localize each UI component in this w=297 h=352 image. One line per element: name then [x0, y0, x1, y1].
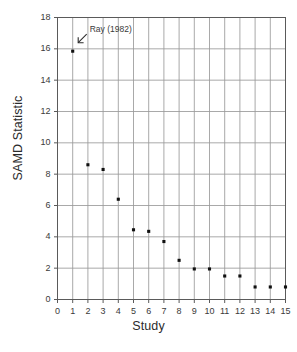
x-tick-label: 4	[111, 307, 125, 316]
x-tick-label: 12	[233, 307, 247, 316]
x-tick-label: 1	[66, 307, 80, 316]
x-tick-label: 10	[203, 307, 217, 316]
x-tick-label: 9	[187, 307, 201, 316]
y-tick-label: 18	[29, 13, 51, 22]
tick-marks	[54, 18, 286, 304]
x-tick-label: 13	[248, 307, 262, 316]
x-tick-label: 15	[279, 307, 293, 316]
down-left-arrow-icon	[78, 34, 87, 43]
y-tick-label: 0	[29, 295, 51, 304]
y-tick-label: 14	[29, 76, 51, 85]
x-tick-label: 5	[127, 307, 141, 316]
y-tick-label: 4	[29, 232, 51, 241]
x-tick-label: 2	[81, 307, 95, 316]
x-tick-label: 7	[157, 307, 171, 316]
y-tick-label: 10	[29, 138, 51, 147]
x-tick-label: 8	[172, 307, 186, 316]
x-tick-label: 6	[142, 307, 156, 316]
y-tick-label: 12	[29, 107, 51, 116]
x-tick-label: 0	[51, 307, 65, 316]
annotation-label-ray-1982: Ray (1982)	[90, 25, 132, 34]
y-axis-title: SAMD Statistic	[11, 68, 25, 208]
x-axis-title: Study	[0, 319, 297, 333]
y-tick-label: 8	[29, 170, 51, 179]
y-tick-label: 2	[29, 264, 51, 273]
x-tick-label: 14	[263, 307, 277, 316]
gridlines	[58, 18, 286, 300]
y-tick-label: 16	[29, 44, 51, 53]
x-tick-label: 11	[218, 307, 232, 316]
y-tick-label: 6	[29, 201, 51, 210]
chart-figure: SAMD Statistic Study Ray (1982) 02468101…	[0, 0, 297, 352]
x-tick-label: 3	[96, 307, 110, 316]
axis-frame	[58, 18, 286, 300]
